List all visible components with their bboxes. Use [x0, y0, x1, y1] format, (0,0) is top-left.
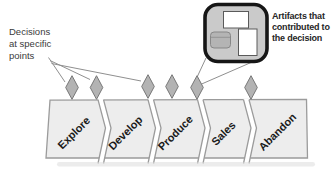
band-shadow — [57, 162, 315, 167]
decision-diamond-2 — [90, 76, 103, 100]
decision-diamond-4 — [166, 75, 179, 99]
decisions-note: Decisions at specific points — [9, 26, 51, 62]
decision-diamond-3 — [142, 75, 155, 99]
artifacts-note-line: Artifacts that — [272, 11, 330, 22]
decisions-note-line: points — [9, 50, 51, 62]
artifacts-note: Artifacts that contributed to the decisi… — [272, 11, 330, 44]
decision-diamond-1 — [66, 76, 79, 100]
lifecycle-decision-figure: Explore Develop Produce Sales Abandon De… — [0, 0, 335, 171]
decisions-note-line: at specific — [9, 38, 51, 50]
decision-diamond-5 — [191, 76, 204, 100]
decision-diamond-6 — [245, 76, 258, 100]
artifact-database-icon — [211, 32, 231, 48]
artifacts-note-line: contributed to — [272, 22, 330, 33]
decisions-note-line: Decisions — [9, 26, 51, 38]
artifacts-note-line: the decision — [272, 33, 330, 44]
artifact-document-icon — [239, 29, 258, 56]
artifact-document-icon — [224, 12, 249, 29]
callout-leader-line-right — [201, 63, 252, 85]
